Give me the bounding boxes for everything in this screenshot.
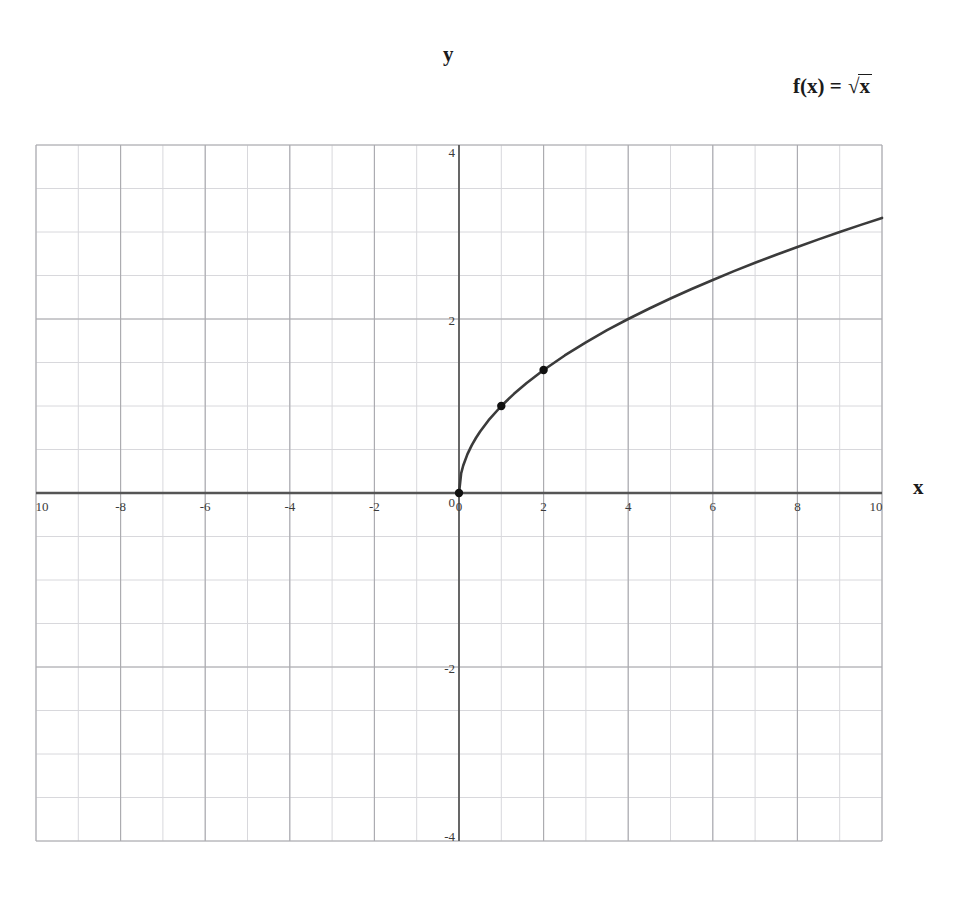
x-tick-label: 6	[710, 500, 717, 513]
x-tick-label: 10	[36, 500, 49, 513]
y-axis-label: y	[443, 44, 454, 65]
x-axis-label: x	[913, 477, 924, 498]
radicand: x	[858, 74, 872, 97]
x-tick-label: -6	[200, 500, 211, 513]
y-tick-label: -2	[444, 662, 455, 675]
function-equals: =	[830, 74, 842, 98]
x-tick-label: 0	[456, 500, 463, 513]
x-tick-label: -8	[115, 500, 126, 513]
x-tick-label: -2	[369, 500, 380, 513]
square-root-icon: √x	[847, 74, 872, 97]
x-tick-label: 2	[540, 500, 547, 513]
graph-figure: y x f(x) = √x 10-8-6-4-20246810420-2-4	[0, 0, 973, 902]
plot-canvas	[36, 145, 882, 841]
y-tick-label: 0	[449, 496, 456, 509]
x-tick-label: -4	[284, 500, 295, 513]
y-tick-label: -4	[444, 830, 455, 843]
y-tick-label: 2	[449, 314, 456, 327]
y-tick-label: 4	[449, 146, 456, 159]
x-tick-label: 10	[870, 500, 883, 513]
function-annotation: f(x) = √x	[793, 74, 872, 97]
x-tick-label: 8	[794, 500, 801, 513]
x-tick-label: 4	[625, 500, 632, 513]
plot-area: 10-8-6-4-20246810420-2-4	[36, 145, 882, 841]
function-lhs: f(x)	[793, 74, 824, 98]
